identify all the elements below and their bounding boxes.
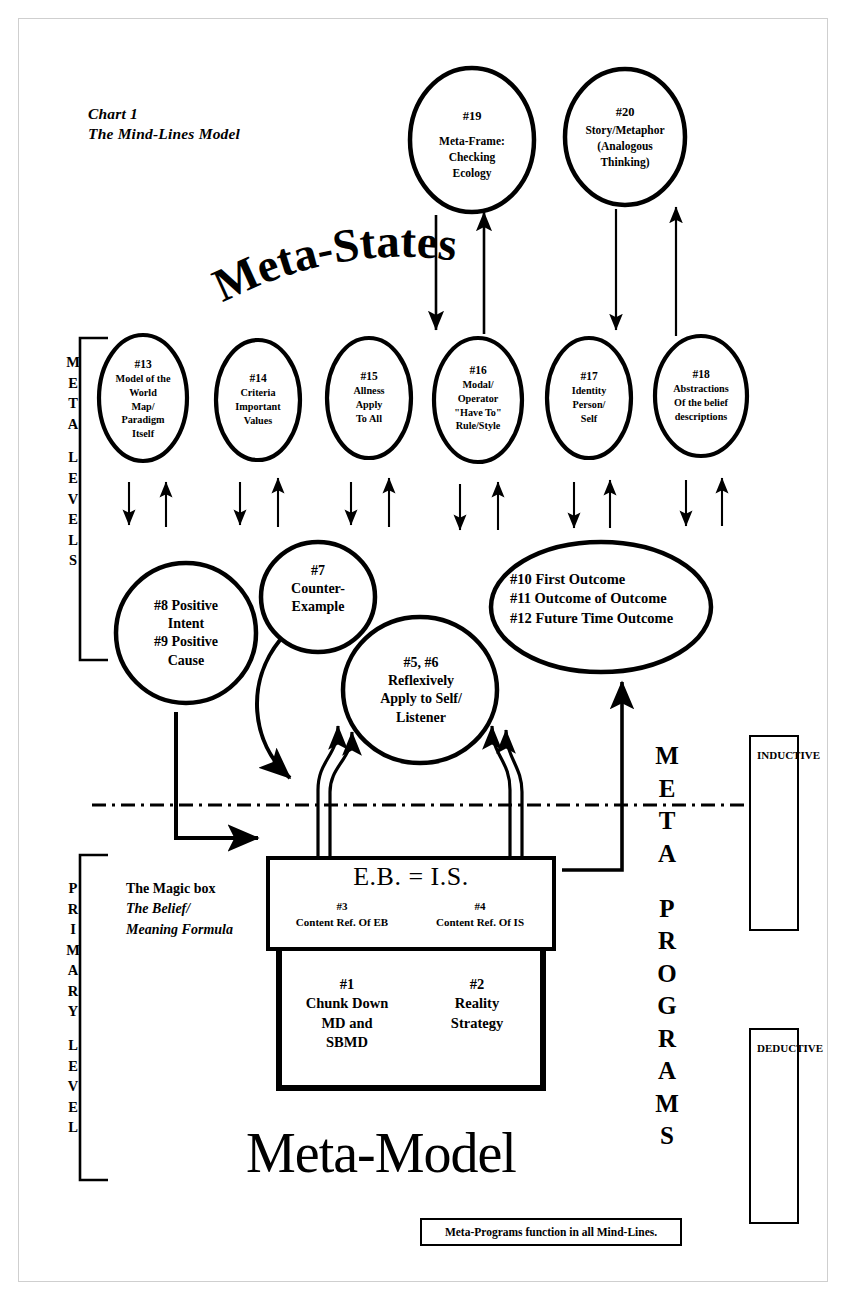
inductive-box xyxy=(749,735,799,931)
meta-levels-label: META LEVELS xyxy=(62,352,84,571)
circle-18-l1: Abstractions xyxy=(654,382,748,396)
circle-19-l2: Checking xyxy=(412,149,532,165)
circle-19-text: #19 Meta-Frame: Checking Ecology xyxy=(412,108,532,182)
circle-5-6-text: #5, #6 Reflexively Apply to Self/ Listen… xyxy=(348,654,494,727)
ref-eb-text: Content Ref. Of EB xyxy=(272,915,412,931)
outcome-l2: #11 Outcome of Outcome xyxy=(510,589,720,608)
primary-2-num: #2 xyxy=(412,975,542,994)
circle-15-l3: To All xyxy=(326,412,412,426)
primary-item-1: #1 Chunk Down MD and SBMD xyxy=(282,975,412,1053)
circle-16-l4: Rule/Style xyxy=(433,419,523,433)
meta-states-banner: Meta-States xyxy=(210,228,570,314)
circle-20-l1: Story/Metaphor xyxy=(560,122,690,138)
circle-20-text: #20 Story/Metaphor (Analogous Thinking) xyxy=(560,104,690,171)
inductive-label: INDUCTIVE xyxy=(757,747,773,764)
magic-note-l1: The Magic box xyxy=(126,879,233,899)
primary-2-l1: Reality xyxy=(412,994,542,1013)
circle-14-num: #14 xyxy=(214,371,302,386)
arrow-counterexample-to-box xyxy=(257,640,290,778)
primary-level-bracket xyxy=(80,855,108,1180)
circle-17-text: #17 Identity Person/ Self xyxy=(546,369,632,425)
meta-model-banner: Meta-Model xyxy=(246,1121,516,1185)
circle-16-num: #16 xyxy=(433,363,523,378)
loop-arrow-left xyxy=(318,726,338,856)
counter-l3: Example xyxy=(258,598,378,616)
footer-note-text: Meta-Programs function in all Mind-Lines… xyxy=(445,1226,657,1238)
reflexive-l2: Reflexively xyxy=(348,672,494,690)
circle-16-l1: Modal/ xyxy=(433,378,523,392)
chart-title-line1: Chart 1 xyxy=(88,104,240,124)
primary-1-l1: Chunk Down xyxy=(282,994,412,1013)
outcome-l3: #12 Future Time Outcome xyxy=(510,609,720,628)
content-ref-eb: #3 Content Ref. Of EB xyxy=(272,899,412,931)
outcome-l1: #10 First Outcome xyxy=(510,570,720,589)
footer-note: Meta-Programs function in all Mind-Lines… xyxy=(420,1218,682,1246)
circle-13-l3: Map/ xyxy=(98,400,188,414)
circle-20-l3: Thinking) xyxy=(560,154,690,170)
chart-title-line2: The Mind-Lines Model xyxy=(88,124,240,144)
reflexive-l3: Apply to Self/ xyxy=(348,690,494,708)
counter-l2: Counter- xyxy=(258,580,378,598)
circle-18-text: #18 Abstractions Of the belief descripti… xyxy=(654,367,748,423)
circle-19-l1: Meta-Frame: xyxy=(412,133,532,149)
counter-l1: #7 xyxy=(258,562,378,580)
magic-note-l2: The Belief/ xyxy=(126,899,233,919)
circle-16-l2: Operator xyxy=(433,392,523,406)
meta-states-label: Meta-States xyxy=(210,228,460,311)
ref-is-num: #4 xyxy=(410,899,550,915)
circle-14-text: #14 Criteria Important Values xyxy=(214,371,302,427)
ref-is-text: Content Ref. Of IS xyxy=(410,915,550,931)
primary-2-l2: Strategy xyxy=(412,1014,542,1033)
deductive-label: DEDUCTIVE xyxy=(757,1040,773,1057)
circle-18-num: #18 xyxy=(654,367,748,382)
primary-1-l2: MD and xyxy=(282,1014,412,1033)
circle-19-l3: Ecology xyxy=(412,165,532,181)
magic-box-note: The Magic box The Belief/ Meaning Formul… xyxy=(126,879,233,940)
positive-l4: Cause xyxy=(116,652,256,670)
reflexive-l1: #5, #6 xyxy=(348,654,494,672)
circle-19-num: #19 xyxy=(412,108,532,126)
circle-13-l2: World xyxy=(98,386,188,400)
circle-15-num: #15 xyxy=(326,369,412,384)
circle-20-num: #20 xyxy=(560,104,690,122)
circle-16-l3: "Have To" xyxy=(433,406,523,420)
circle-16-text: #16 Modal/ Operator "Have To" Rule/Style xyxy=(433,363,523,433)
primary-1-l3: SBMD xyxy=(282,1033,412,1052)
belief-formula: E.B. = I.S. xyxy=(266,862,556,892)
circle-13-l4: Paradigm xyxy=(98,413,188,427)
circle-15-l1: Allness xyxy=(326,384,412,398)
circle-20-l2: (Analogous xyxy=(560,138,690,154)
positive-l2: Intent xyxy=(116,615,256,633)
circle-17-l3: Self xyxy=(546,412,632,426)
circle-14-l1: Criteria xyxy=(214,386,302,400)
circle-13-l1: Model of the xyxy=(98,372,188,386)
arrow-box-to-outcomes xyxy=(562,682,622,870)
primary-1-num: #1 xyxy=(282,975,412,994)
primary-level-label: PRIMARY LEVEL xyxy=(62,878,84,1138)
ref-eb-num: #3 xyxy=(272,899,412,915)
magic-note-l3: Meaning Formula xyxy=(126,920,233,940)
circle-13-num: #13 xyxy=(98,357,188,372)
content-ref-is: #4 Content Ref. Of IS xyxy=(410,899,550,931)
positive-l3: #9 Positive xyxy=(116,633,256,651)
circle-17-l2: Person/ xyxy=(546,398,632,412)
circle-13-l5: Itself xyxy=(98,427,188,441)
circle-outcomes-text: #10 First Outcome #11 Outcome of Outcome… xyxy=(510,570,720,628)
circle-8-9-text: #8 Positive Intent #9 Positive Cause xyxy=(116,597,256,670)
reflexive-l4: Listener xyxy=(348,709,494,727)
arrow-positive-to-box xyxy=(176,712,258,838)
circle-13-text: #13 Model of the World Map/ Paradigm Its… xyxy=(98,357,188,441)
deductive-box xyxy=(749,1028,799,1224)
page-title: Chart 1 The Mind-Lines Model xyxy=(88,104,240,145)
primary-item-2: #2 Reality Strategy xyxy=(412,975,542,1033)
circle-18-l2: Of the belief xyxy=(654,396,748,410)
circle-18-l3: descriptions xyxy=(654,410,748,424)
circle-15-l2: Apply xyxy=(326,398,412,412)
meta-programs-label: META PROGRAMS xyxy=(652,740,682,1153)
positive-l1: #8 Positive xyxy=(116,597,256,615)
circle-7-text: #7 Counter- Example xyxy=(258,562,378,617)
circle-17-l1: Identity xyxy=(546,384,632,398)
circle-15-text: #15 Allness Apply To All xyxy=(326,369,412,425)
circle-17-num: #17 xyxy=(546,369,632,384)
circle-14-l2: Important xyxy=(214,400,302,414)
